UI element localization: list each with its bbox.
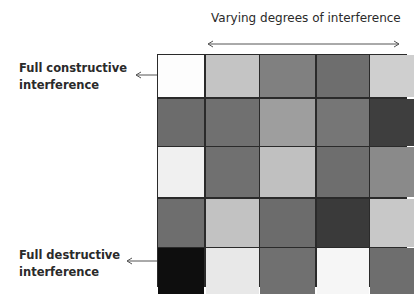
grid-cell-r1-c2 bbox=[206, 55, 259, 97]
label-line: interference bbox=[19, 264, 120, 281]
grid-cell-r3-c4 bbox=[317, 147, 369, 197]
full-constructive-label: Full constructive interference bbox=[19, 60, 127, 94]
grid-cell-r5-c4 bbox=[317, 248, 369, 294]
grid-cell-r3-c1 bbox=[158, 147, 204, 197]
grid-cell-r1-c1 bbox=[158, 55, 204, 97]
double-arrow-icon bbox=[208, 41, 399, 47]
grid-cell-r1-c3 bbox=[260, 55, 315, 97]
grid-cell-r2-c4 bbox=[317, 99, 369, 146]
grid-cell-r2-c5 bbox=[370, 99, 414, 146]
grid-cell-r4-c1 bbox=[158, 199, 204, 247]
full-destructive-label: Full destructive interference bbox=[19, 247, 120, 281]
interference-grid bbox=[157, 54, 407, 287]
label-line: Full constructive bbox=[19, 60, 127, 77]
label-line: interference bbox=[19, 77, 127, 94]
grid-cell-r1-c5 bbox=[370, 55, 414, 97]
grid-cell-r4-c3 bbox=[260, 199, 315, 247]
label-line: Full destructive bbox=[19, 247, 120, 264]
grid-cell-r4-c5 bbox=[370, 199, 414, 247]
grid-cell-r4-c4 bbox=[317, 199, 369, 247]
grid-cell-r2-c1 bbox=[158, 99, 204, 146]
grid-cell-r3-c3 bbox=[260, 147, 315, 197]
grid-cell-r5-c2 bbox=[206, 248, 259, 294]
grid-cell-r5-c5 bbox=[370, 248, 414, 294]
grid-cell-r3-c2 bbox=[206, 147, 259, 197]
grid-cell-r3-c5 bbox=[370, 147, 414, 197]
grid-cell-r5-c3 bbox=[260, 248, 315, 294]
grid-cell-r2-c2 bbox=[206, 99, 259, 146]
grid-cell-r2-c3 bbox=[260, 99, 315, 146]
grid-cell-r4-c2 bbox=[206, 199, 259, 247]
grid-cell-r1-c4 bbox=[317, 55, 369, 97]
left-arrow-destructive-icon bbox=[127, 258, 158, 264]
grid-cell-r5-c1 bbox=[158, 248, 204, 294]
